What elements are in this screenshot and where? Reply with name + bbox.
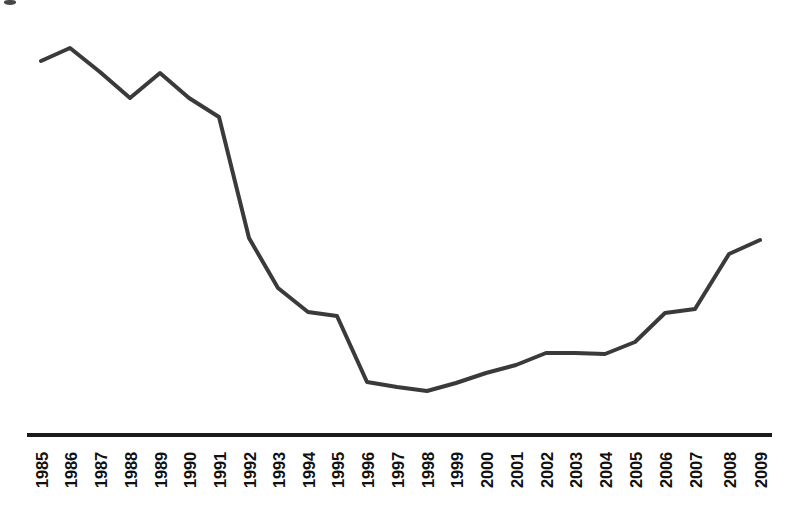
- x-tick-label-1993: 1993: [270, 452, 288, 524]
- x-tick-label-2000: 2000: [478, 452, 496, 524]
- x-tick-label-1990: 1990: [181, 452, 199, 524]
- x-tick-label-1996: 1996: [359, 452, 377, 524]
- x-tick-label-2006: 2006: [657, 452, 675, 524]
- x-tick-label-2005: 2005: [627, 452, 645, 524]
- x-tick-label-1992: 1992: [241, 452, 259, 524]
- x-tick-label-2002: 2002: [538, 452, 556, 524]
- x-tick-label-2003: 2003: [567, 452, 585, 524]
- chart-plot-area: [0, 0, 794, 529]
- x-tick-label-1989: 1989: [152, 452, 170, 524]
- x-tick-label-1991: 1991: [211, 452, 229, 524]
- chart-container: 1985198619871988198919901991199219931994…: [0, 0, 794, 529]
- data-series-line: [41, 48, 760, 391]
- x-tick-label-2007: 2007: [687, 452, 705, 524]
- x-tick-label-1999: 1999: [448, 452, 466, 524]
- x-tick-label-2008: 2008: [721, 452, 739, 524]
- x-tick-label-1998: 1998: [419, 452, 437, 524]
- x-tick-label-1994: 1994: [300, 452, 318, 524]
- x-tick-label-2009: 2009: [752, 452, 770, 524]
- x-tick-label-1995: 1995: [329, 452, 347, 524]
- x-tick-label-1985: 1985: [33, 452, 51, 524]
- x-tick-label-2001: 2001: [508, 452, 526, 524]
- x-tick-label-1997: 1997: [389, 452, 407, 524]
- x-tick-label-1988: 1988: [122, 452, 140, 524]
- x-tick-label-1986: 1986: [62, 452, 80, 524]
- x-tick-label-2004: 2004: [597, 452, 615, 524]
- x-tick-label-1987: 1987: [92, 452, 110, 524]
